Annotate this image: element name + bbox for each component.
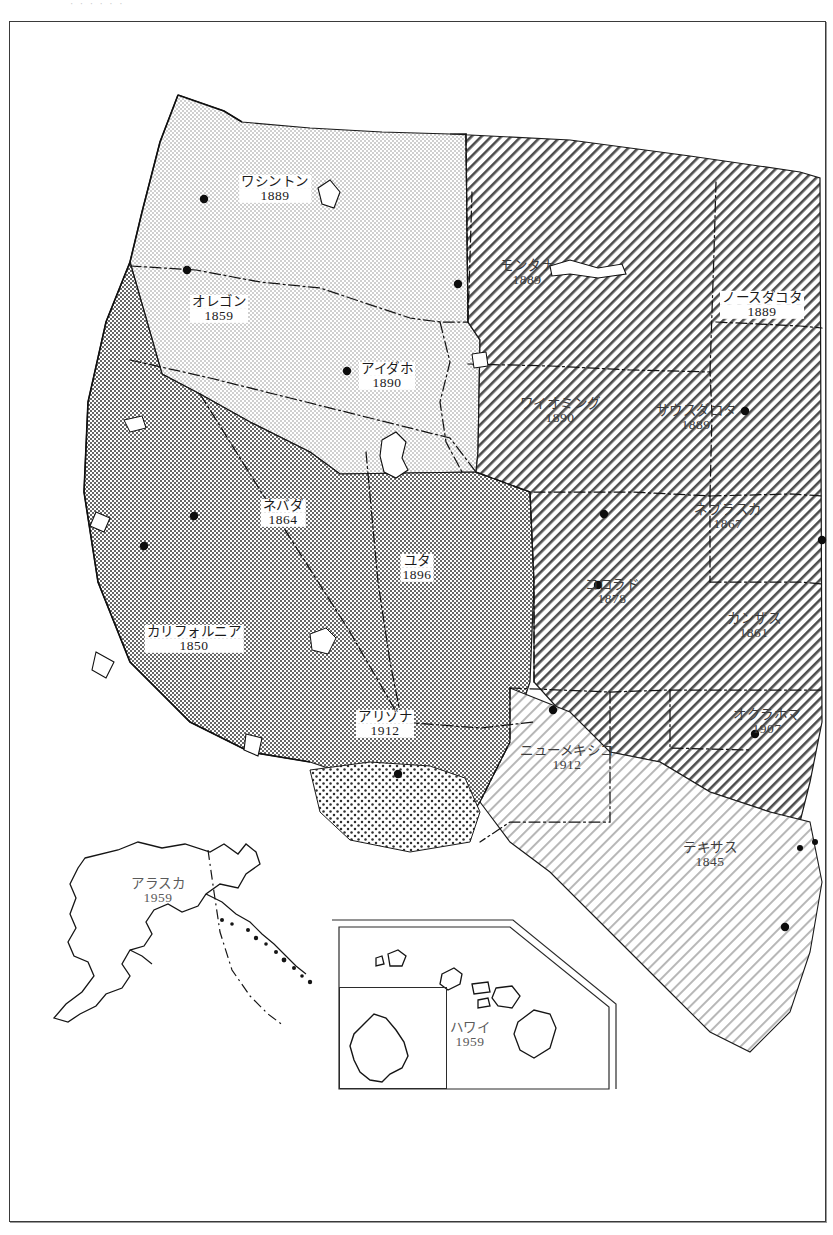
state-label-new-mexico: ニューメキシコ 1912 xyxy=(520,744,614,772)
state-label-colorado: コロラド 1878 xyxy=(585,578,639,606)
inset-label-hawaii: ハワイ 1959 xyxy=(450,1021,491,1049)
state-label-kansas: カンザス 1861 xyxy=(727,612,781,640)
state-label-washington: ワシントン 1889 xyxy=(239,175,311,203)
state-label-north-dakota: ノースダコタ 1889 xyxy=(720,291,804,319)
state-label-california: カリフォルニア 1850 xyxy=(145,625,244,653)
state-label-oklahoma: オクラホマ 1907 xyxy=(733,708,801,736)
state-label-wyoming: ワイオミング 1890 xyxy=(520,397,601,425)
state-label-utah: ユタ 1896 xyxy=(401,554,434,582)
alaska-aleutians xyxy=(220,918,312,984)
top-caption: · · · · · · xyxy=(70,0,330,10)
inset-label-alaska: アラスカ 1959 xyxy=(131,877,185,905)
state-label-nebraska: ネブラスカ 1867 xyxy=(694,503,762,531)
map-frame: ワシントン 1889 オレゴン 1859 アイダホ 1890 モンタナ 1889… xyxy=(9,21,826,1222)
state-label-montana: モンタナ 1889 xyxy=(500,259,554,287)
state-label-nevada: ネバダ 1864 xyxy=(261,499,306,527)
state-label-south-dakota: サウスダコタ 1889 xyxy=(656,404,737,432)
oahu-inset-box xyxy=(339,987,447,1089)
state-label-oregon: オレゴン 1859 xyxy=(190,295,248,323)
map-canvas: ワシントン 1889 オレゴン 1859 アイダホ 1890 モンタナ 1889… xyxy=(10,22,827,1223)
state-label-idaho: アイダホ 1890 xyxy=(359,362,415,390)
state-label-texas: テキサス 1845 xyxy=(683,841,737,869)
alaska-outline xyxy=(54,842,260,1022)
state-label-arizona: アリゾナ 1912 xyxy=(356,710,414,738)
